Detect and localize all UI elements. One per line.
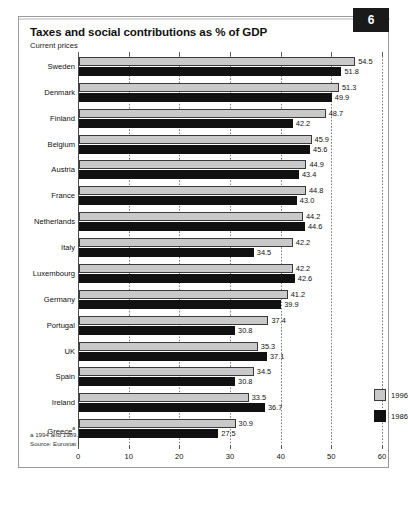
category-label-denmark: Denmark [44,88,75,97]
bar-1996-ireland [79,393,249,402]
value-label: 42.6 [298,274,312,283]
x-tick-label: 0 [58,452,98,461]
bar-1986-belgium [79,145,310,154]
chart-subtitle: Current prices [30,41,78,50]
category-label-italy: Italy [61,243,75,252]
bar-1986-sweden [79,67,341,76]
footnote-a: a 1994 and 1989. [30,430,78,439]
bar-1986-denmark [79,93,332,102]
value-label: 41.2 [291,290,305,299]
category-axis-labels: SwedenDenmarkFinlandBelgiumAustriaFrance… [19,56,75,444]
value-label: 51.3 [342,83,356,92]
bar-group: 41.239.9 [78,290,382,316]
category-label-sweden: Sweden [48,62,75,71]
category-label-france: France [51,191,75,200]
bar-1996-belgium [79,135,312,144]
tick-bottom-20 [179,445,180,449]
value-label: 34.5 [257,367,271,376]
value-label: 39.9 [284,300,298,309]
bar-group: 35.337.1 [78,342,382,368]
bar-1996-italy [79,238,293,247]
value-label: 44.9 [309,160,323,169]
bar-1986-austria [79,170,299,179]
tick-top-0 [78,52,79,56]
bar-group: 34.530.8 [78,367,382,393]
bar-group: 44.843.0 [78,186,382,212]
value-label: 54.5 [358,57,372,66]
bar-group: 33.536.7 [78,393,382,419]
bar-1996-greece [79,419,236,428]
tick-top-10 [129,52,130,56]
bar-1996-luxembourg [79,264,293,273]
chart-title: Taxes and social contributions as % of G… [30,25,267,38]
bar-1996-denmark [79,83,339,92]
value-label: 45.9 [315,135,329,144]
legend-swatch-1986 [374,410,386,422]
bar-group: 44.943.4 [78,160,382,186]
value-label: 44.6 [308,222,322,231]
header-rule [19,18,390,20]
bar-group: 48.742.2 [78,109,382,135]
bar-1996-germany [79,290,288,299]
value-label: 44.8 [309,186,323,195]
bar-1986-france [79,196,297,205]
value-label: 36.7 [268,403,282,412]
x-tick-label: 20 [159,452,199,461]
tick-top-30 [230,52,231,56]
value-label: 30.9 [239,419,253,428]
gridline-60 [382,56,383,444]
bar-group: 37.430.8 [78,316,382,342]
bar-1986-luxembourg [79,274,295,283]
category-label-ireland: Ireland [52,398,75,407]
value-label: 42.2 [296,264,310,273]
tick-bottom-60 [382,445,383,449]
bar-1996-spain [79,367,254,376]
legend-label-1996: 1996 [391,391,408,400]
category-label-germany: Germany [44,295,75,304]
bar-group: 45.945.6 [78,135,382,161]
value-label: 27.5 [221,429,235,438]
legend-swatch-1996 [374,389,386,401]
bar-1996-austria [79,160,306,169]
bar-1986-spain [79,377,235,386]
bar-1986-netherlands [79,222,305,231]
value-label: 51.8 [344,67,358,76]
bar-group: 30.927.5 [78,419,382,445]
bar-1996-netherlands [79,212,303,221]
value-label: 34.5 [257,248,271,257]
value-label: 37.4 [271,316,285,325]
value-label: 42.2 [296,119,310,128]
value-label: 30.8 [238,377,252,386]
bar-1986-greece [79,429,218,438]
x-tick-label: 50 [311,452,351,461]
category-label-finland: Finland [50,114,75,123]
value-label: 37.1 [270,352,284,361]
bar-1986-portugal [79,326,235,335]
tick-bottom-10 [129,445,130,449]
category-label-austria: Austria [51,165,75,174]
source-note: Source: Eurostat [30,439,78,448]
tick-top-50 [331,52,332,56]
bar-1996-uk [79,342,258,351]
value-label: 48.7 [329,109,343,118]
bar-1986-finland [79,119,293,128]
category-label-belgium: Belgium [48,140,75,149]
value-label: 44.2 [306,212,320,221]
value-label: 33.5 [252,393,266,402]
value-label: 35.3 [261,342,275,351]
bar-1986-ireland [79,403,265,412]
value-label: 49.9 [335,93,349,102]
category-label-portugal: Portugal [47,321,75,330]
bar-group: 51.349.9 [78,83,382,109]
bar-1996-portugal [79,316,268,325]
plot-area: 010203040506054.551.851.349.948.742.245.… [78,56,382,444]
bar-1986-italy [79,248,254,257]
footnotes: a 1994 and 1989. Source: Eurostat [30,430,78,448]
category-label-uk: UK [64,347,75,356]
tick-top-20 [179,52,180,56]
value-label: 42.2 [296,238,310,247]
tick-bottom-40 [281,445,282,449]
value-label: 43.0 [300,196,314,205]
tick-top-60 [382,52,383,56]
value-label: 43.4 [302,170,316,179]
